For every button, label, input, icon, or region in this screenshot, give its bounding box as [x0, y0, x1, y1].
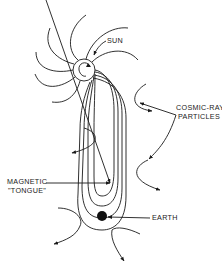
sun-leader [94, 41, 106, 55]
cosmic-leader-2 [149, 115, 176, 159]
sun-label: SUN [107, 37, 123, 45]
sun [73, 59, 95, 81]
magnetic-tongue-label-line2: "TONGUE" [8, 187, 46, 195]
cosmic-ray-label-line2: PARTICLES [176, 113, 222, 121]
label-leaders [46, 0, 176, 218]
earth [97, 211, 107, 221]
sun-earth-magnetic-tongue-diagram: SUN COSMIC-RAY PARTICLES MAGNETIC "TONGU… [0, 0, 222, 263]
solar-field-lines [35, 15, 138, 102]
cosmic-ray-trajectories [54, 84, 160, 261]
cosmic-ray-label-line1: COSMIC-RAY [176, 104, 222, 112]
magnetic-tongue-label-line1: MAGNETIC [7, 178, 47, 186]
earth-label: EARTH [152, 214, 178, 222]
earth-leader [108, 217, 150, 218]
tongue-leader [46, 0, 110, 183]
cosmic-leader-1 [140, 103, 176, 115]
magnetic-tongue-lines [78, 70, 126, 230]
